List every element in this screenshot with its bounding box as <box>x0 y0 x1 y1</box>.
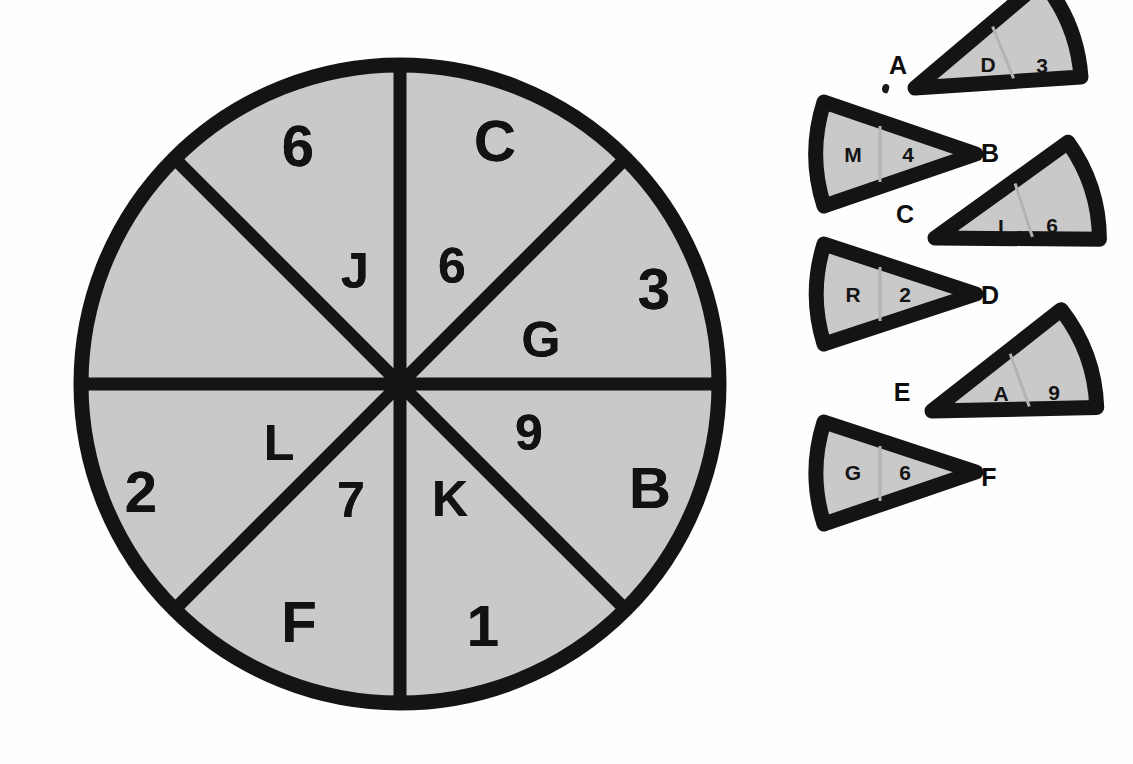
wheel-svg <box>60 44 744 728</box>
wheel-diagram: G 3 6 C J 6 L 2 7 F K 1 9 B <box>60 44 744 728</box>
piece-i6-outer-label: 6 <box>1046 215 1058 236</box>
wheel-sector-5-outer-label: 2 <box>125 463 157 521</box>
piece-a9-inner-label: A <box>993 383 1008 404</box>
wheel-sector-6-inner-label: 7 <box>337 475 365 525</box>
piece-d3-external-label: A <box>889 53 907 78</box>
wheel-sector-8-inner-label: 9 <box>515 408 543 458</box>
wheel-sector-8-outer-label: B <box>629 459 671 517</box>
wheel-sector-2-inner-label: 6 <box>438 241 466 291</box>
piece-g6-outer-label: 6 <box>899 462 911 483</box>
wheel-sector-7-outer-label: 1 <box>467 597 499 655</box>
piece-r2-external-label: D <box>981 283 999 308</box>
piece-i6-inner-label: I <box>998 216 1004 237</box>
wheel-sector-1-outer-label: 3 <box>638 260 670 318</box>
wheel-sector-3-outer-label: 6 <box>282 117 314 175</box>
wheel-sector-1-inner-label: G <box>522 315 561 365</box>
piece-a9-outer-label: 9 <box>1048 382 1060 403</box>
wheel-sector-6-outer-label: F <box>281 593 316 651</box>
piece-r2[interactable]: R 2 <box>808 232 998 352</box>
wheel-sector-5-inner-label: L <box>264 418 295 468</box>
piece-d3-inner-label: D <box>980 54 995 75</box>
piece-m4-outer-label: 4 <box>902 144 914 165</box>
piece-r2-inner-label: R <box>845 284 860 305</box>
piece-i6-external-label: C <box>896 202 914 227</box>
piece-m4-external-label: B <box>981 141 999 166</box>
piece-r2-outer-label: 2 <box>899 284 911 305</box>
wheel-sector-3-inner-label: J <box>341 246 369 296</box>
piece-m4-inner-label: M <box>844 144 862 165</box>
piece-r2-shape <box>816 244 976 344</box>
piece-g6[interactable]: G 6 <box>808 408 998 533</box>
wheel-hub <box>391 375 409 393</box>
piece-d3-outer-label: 3 <box>1036 55 1048 76</box>
piece-a9-external-label: E <box>894 380 911 405</box>
piece-g6-shape <box>816 422 976 524</box>
piece-g6-inner-label: G <box>845 462 861 483</box>
piece-g6-external-label: F <box>981 465 996 490</box>
figure-canvas: G 3 6 C J 6 L 2 7 F K 1 9 B D 3 <box>0 0 1133 764</box>
wheel-sector-7-inner-label: K <box>432 474 468 524</box>
wheel-sector-2-outer-label: C <box>474 112 516 170</box>
